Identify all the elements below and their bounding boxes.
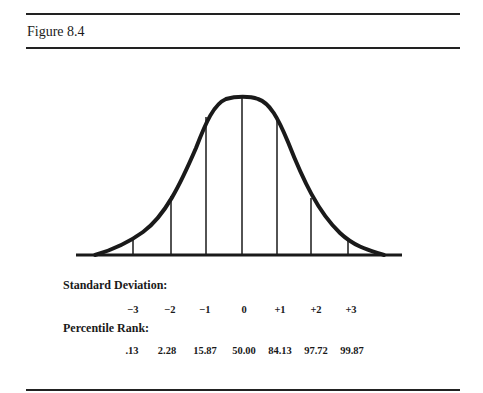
sd-value: −2: [164, 304, 175, 315]
sd-value: +1: [274, 304, 285, 315]
bell-curve: [95, 97, 384, 255]
sd-value: +2: [310, 304, 321, 315]
sd-lines: [133, 97, 348, 255]
pr-value: 99.87: [340, 345, 364, 356]
pr-value: 15.87: [193, 345, 217, 356]
sd-value: −3: [127, 304, 138, 315]
sd-value: −1: [199, 304, 210, 315]
pr-value: .13: [125, 345, 138, 356]
pr-heading: Percentile Rank:: [63, 321, 149, 336]
pr-value: 84.13: [268, 345, 292, 356]
sd-value: 0: [241, 304, 246, 315]
bottom-rule: [26, 389, 460, 391]
pr-value: 50.00: [232, 345, 256, 356]
sd-value: +3: [345, 304, 356, 315]
pr-value: 2.28: [158, 345, 176, 356]
pr-value: 97.72: [304, 345, 328, 356]
sd-heading: Standard Deviation:: [63, 278, 167, 293]
